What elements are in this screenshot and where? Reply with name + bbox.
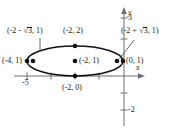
label-right-vertex: (0, 1) [126,57,143,65]
point-left-focus [31,59,36,64]
label-right-focus: (-2 + √3, 1) [121,27,158,35]
y-axis [121,7,128,126]
point-top-vertex [73,44,78,49]
point-right-focus [115,59,120,64]
graph-canvas [0,0,180,132]
point-center [73,59,78,64]
point-bottom-vertex [73,74,78,79]
point-right-vertex [121,59,126,64]
ellipse-graph-figure: (-2 - √3, 1) (-2, 2) (-2 + √3, 1) (-4, 1… [0,0,180,132]
y-tick-label-neg2: -2 [128,106,135,114]
y-tick-label-3: 3 [128,14,132,22]
x-axis-label: x [136,64,140,72]
point-left-vertex [25,59,30,64]
x-tick-label-neg5: -5 [22,79,29,87]
label-bottom-vertex: (-2, 0) [62,84,82,92]
label-left-focus: (-2 - √3, 1) [7,27,43,35]
label-top-vertex: (-2, 2) [63,27,83,35]
label-center: (-2, 1) [79,57,99,65]
label-left-vertex: (-4, 1) [2,57,22,65]
